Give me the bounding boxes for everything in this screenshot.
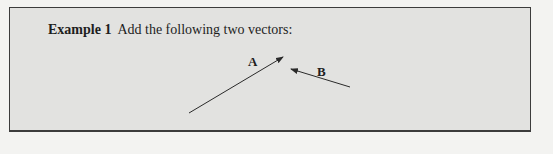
vector-a-label: A — [248, 54, 257, 70]
vector-b-label: B — [317, 64, 326, 80]
vector-diagram — [0, 0, 553, 154]
document-page: Example 1Add the following two vectors: … — [0, 0, 553, 154]
vector-a-arrow — [189, 57, 283, 113]
